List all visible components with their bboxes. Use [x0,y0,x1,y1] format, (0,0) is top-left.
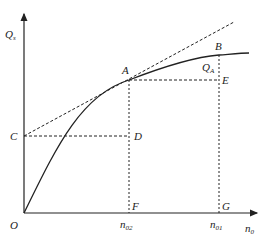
y-axis-label: Qs [5,28,16,42]
x-axis-label: n0 [245,222,255,236]
point-a-label: A [121,64,129,76]
point-g-label: G [222,200,230,212]
diagram-canvas: Qs O n0 A B C D E F G QA n02 n01 [0,0,271,244]
point-e-label: E [221,74,229,86]
tangent-line [24,22,234,136]
qa-label: QA [202,61,215,75]
n02-label: n02 [120,218,133,232]
point-f-label: F [131,200,139,212]
origin-label: O [10,219,18,231]
point-c-label: C [10,130,18,142]
point-b-label: B [215,40,222,52]
point-d-label: D [133,130,142,142]
n01-label: n01 [210,218,223,232]
